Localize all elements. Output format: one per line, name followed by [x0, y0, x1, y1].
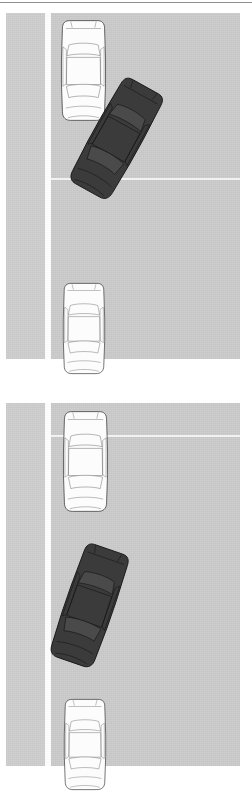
light-car-upper — [59, 18, 108, 123]
shoulder-grain-texture — [6, 13, 45, 359]
panel-top — [0, 13, 240, 359]
light-car-lower — [61, 281, 107, 376]
lane-line-vertical — [45, 403, 51, 766]
shoulder-grain-texture — [6, 403, 45, 766]
road-shoulder — [6, 403, 45, 766]
road-shoulder — [6, 13, 45, 359]
top-horizontal-rule — [0, 2, 252, 3]
light-car-lower — [62, 697, 108, 792]
light-car-upper — [61, 409, 110, 514]
panel-bottom — [0, 403, 240, 766]
lane-line-vertical — [45, 13, 51, 359]
